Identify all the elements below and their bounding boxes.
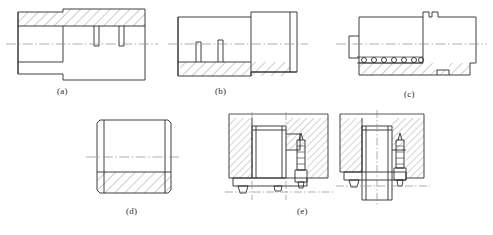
subfigure-e-right-housing-hatch-a — [340, 118, 362, 172]
caption-e: (e) — [297, 206, 308, 216]
subfigure-e-right-flange — [344, 172, 406, 180]
subfigure-b-hole-1 — [196, 42, 201, 62]
technical-drawing-canvas — [0, 0, 493, 235]
subfigure-b-section-hatch — [178, 62, 290, 76]
subfigure-e-left-bushing — [252, 126, 286, 178]
subfigure-b — [168, 12, 308, 76]
subfigure-e-left-housing-hatch-b — [286, 118, 328, 178]
subfigure-a-groove-2 — [119, 26, 124, 46]
drawing-sheet: (a) (b) (c) (d) (e) — [0, 0, 493, 235]
subfigure-d-section-hatch — [97, 172, 171, 193]
caption-d: (d) — [126, 206, 137, 216]
subfigure-a — [6, 9, 158, 80]
subfigure-c-section-hatch — [359, 63, 470, 75]
caption-b: (b) — [215, 86, 226, 96]
subfigure-e-view-right — [336, 110, 430, 205]
subfigure-d — [86, 120, 182, 193]
subfigure-e-right-housing-hatch-b — [392, 118, 424, 178]
subfigure-e-left-bushing-inner — [256, 126, 282, 178]
subfigure-e-view-left — [225, 112, 333, 200]
subfigure-e-left-screw-head-2 — [274, 186, 282, 191]
subfigure-a-groove-1 — [94, 26, 99, 46]
subfigure-c-left-boss — [349, 36, 359, 58]
caption-a: (a) — [57, 86, 68, 96]
subfigure-e-left-housing-hatch-a — [229, 118, 252, 178]
subfigure-c-serration-band — [357, 57, 424, 63]
subfigure-c — [336, 12, 487, 75]
caption-c: (c) — [404, 89, 415, 99]
subfigure-b-hole-2 — [218, 40, 223, 62]
